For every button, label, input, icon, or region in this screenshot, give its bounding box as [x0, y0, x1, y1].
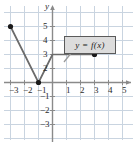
function-label-text: y = f(x) [75, 40, 104, 50]
y-tick-label-0: 5 [43, 22, 48, 31]
x-tick-label-3: 1 [66, 86, 71, 95]
y-tick-label-4: −1 [40, 92, 50, 101]
x-tick-label-7: 5 [122, 86, 127, 95]
y-tick-label-3: 2 [43, 64, 48, 73]
x-tick-label-5: 3 [94, 86, 99, 95]
function-label-callout: y = f(x) [64, 36, 116, 54]
x-tick-label-0: −3 [9, 86, 19, 95]
y-tick-label-6: −3 [40, 120, 50, 129]
y-tick-label-5: −2 [40, 106, 50, 115]
y-tick-label-2: 3 [43, 50, 48, 59]
x-tick-label-6: 4 [108, 86, 113, 95]
x-tick-label-1: −2 [23, 86, 33, 95]
grid-lines [4, 6, 133, 140]
y-axis-label: y [45, 2, 49, 11]
axes [4, 7, 131, 142]
x-tick-label-4: 2 [80, 86, 85, 95]
y-axis-arrow [50, 5, 55, 10]
y-tick-label-1: 4 [43, 36, 48, 45]
function-graph-figure: y = f(x) y −3−2−1123455432−1−2−3 [0, 0, 135, 147]
point-neg3-4 [8, 24, 13, 29]
graph-canvas [0, 0, 135, 147]
